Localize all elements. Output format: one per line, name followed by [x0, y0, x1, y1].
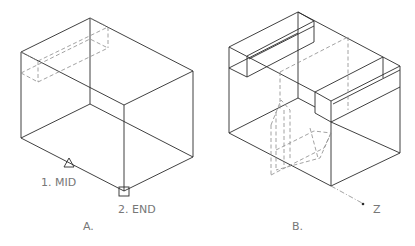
- caption-a: A.: [83, 220, 94, 233]
- z-axis-line: [331, 186, 362, 203]
- snap-label-mid: 1. MID: [41, 176, 76, 189]
- snap-label-end: 2. END: [118, 203, 156, 216]
- figure-a-hidden-slot: [21, 18, 108, 82]
- caption-b: B.: [292, 220, 303, 233]
- isometric-drawings: 1. MID 2. END A.: [0, 0, 415, 246]
- z-axis-label: Z: [373, 203, 381, 216]
- z-axis-endpoint-icon: [362, 203, 365, 206]
- figure-a-box: [21, 18, 193, 191]
